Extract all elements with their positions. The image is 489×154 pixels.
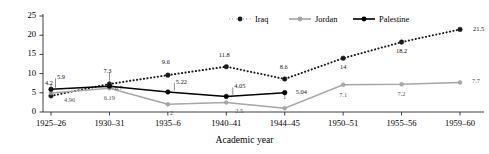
x-axis-title: Academic year <box>0 134 489 145</box>
y-axis-tick-label: 20 <box>0 29 36 39</box>
x-axis-tick-label: 1930–31 <box>81 118 137 128</box>
data-point-label: 4.96 <box>64 96 75 103</box>
data-point-label: 7.3 <box>87 67 127 74</box>
data-point-label: 7.2 <box>382 90 422 97</box>
x-axis-tick-label: 1950–51 <box>315 118 371 128</box>
data-point-label: 5.9 <box>57 73 65 80</box>
data-point-label: 5.04 <box>296 88 307 95</box>
x-axis-tick-label: 1925–26 <box>23 118 79 128</box>
x-axis-tick-label: 1944–45 <box>257 118 313 128</box>
x-axis-tick-label: 1959–60 <box>432 118 488 128</box>
y-axis-tick-label: 15 <box>0 48 36 58</box>
data-point-label: 6.7 <box>114 84 122 91</box>
y-axis-tick-label: 0 <box>0 106 36 116</box>
chart-plot-area <box>0 0 489 154</box>
x-axis-tick-label: 1940–41 <box>198 118 254 128</box>
data-point-label: 2 <box>170 109 173 116</box>
data-point-label: 5.22 <box>176 78 187 85</box>
x-axis-tick-label: 1955–56 <box>374 118 430 128</box>
data-point-label: 7.7 <box>472 77 480 84</box>
data-point-label: 2.5 <box>235 107 243 114</box>
data-point-label: 6.19 <box>89 94 129 101</box>
data-point-label: 9.6 <box>146 58 186 65</box>
data-point-label: 8.6 <box>264 63 304 70</box>
y-axis-tick-label: 5 <box>0 87 36 97</box>
data-point-label: 21.5 <box>473 25 484 32</box>
line-chart: IraqJordanPalestine 05101520251925–26193… <box>0 0 489 154</box>
data-point-label: 11.8 <box>204 51 244 58</box>
y-axis-tick-label: 10 <box>0 68 36 78</box>
data-point-label: 18.2 <box>382 47 422 54</box>
data-point-label: 7.1 <box>323 91 363 98</box>
x-axis-tick-label: 1935–6 <box>140 118 196 128</box>
data-point-label: 4.05 <box>234 82 245 89</box>
data-point-label: 14 <box>323 63 363 70</box>
y-axis-tick-label: 25 <box>0 10 36 20</box>
